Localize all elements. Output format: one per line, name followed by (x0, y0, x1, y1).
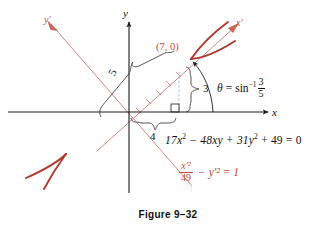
ratio-denominator: 5 (258, 89, 265, 100)
standard-eq-denominator: 49 (179, 173, 193, 184)
general-eq-part3: + 49 = 0 (258, 134, 302, 146)
figure-container: y x x′ y′ (7, 0) 5 3 4 θ=sin−135 17x2 − … (0, 0, 336, 247)
arcsin-text: sin (235, 82, 248, 94)
standard-eq-fraction: x′²49 (179, 161, 193, 184)
figure-caption: Figure 9–32 (0, 209, 336, 220)
adjacent-leg-label: 4 (150, 131, 156, 142)
right-angle-marker (171, 104, 179, 112)
theta-equation: θ=sin−135 (217, 78, 266, 101)
theta-symbol: θ (217, 82, 223, 94)
standard-form-equation: x′²49− y′² = 1 (178, 162, 239, 185)
general-eq-part1: 17x (165, 134, 182, 146)
general-eq-part2: − 48xy + 31y (186, 134, 254, 146)
y-prime-axis-label: y′ (44, 15, 51, 25)
x-prime-axis-label: x′ (236, 18, 243, 28)
hyperbola-branch-upper-right (191, 22, 235, 59)
sine-ratio-fraction: 35 (258, 77, 265, 100)
brace-opposite (186, 67, 199, 112)
opposite-leg-label: 3 (203, 83, 209, 94)
theta-equals: = (226, 82, 233, 94)
arcsin-exponent: −1 (249, 80, 257, 89)
x-prime-ticks (136, 72, 181, 113)
brace-hypotenuse (100, 51, 174, 117)
standard-eq-rest: − y′² = 1 (198, 166, 239, 178)
vertex-point-label: (7, 0) (156, 42, 179, 53)
hyperbola-branch-lower-left (26, 154, 66, 189)
x-axis-label: x (272, 107, 277, 118)
general-equation: 17x2 − 48xy + 31y2 + 49 = 0 (165, 133, 302, 146)
y-axis-label: y (123, 8, 128, 19)
